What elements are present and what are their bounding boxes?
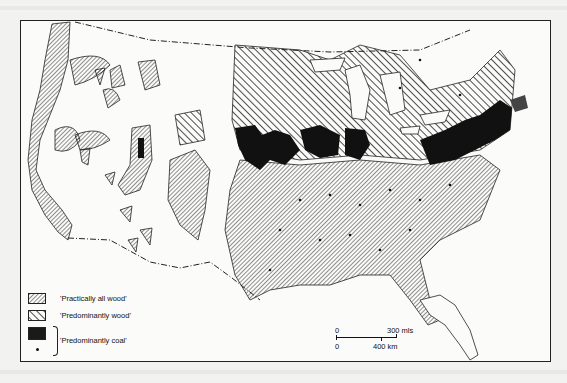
dot-icon <box>36 348 39 351</box>
legend-label: 'Predominantly wood' <box>60 311 131 320</box>
scale-line <box>336 337 396 338</box>
bracket-icon <box>53 326 58 356</box>
legend-label: 'Practically all wood' <box>60 294 127 303</box>
scale-bar: 0 300 mls 0 400 km <box>335 326 435 356</box>
scale-tick <box>381 337 382 341</box>
wide-hatch-icon <box>28 310 46 321</box>
scale-tick <box>396 334 397 338</box>
scale-mi-start: 0 <box>335 326 339 335</box>
region-south <box>225 155 500 325</box>
scale-km-start: 0 <box>335 342 339 351</box>
solid-black-icon <box>28 327 46 340</box>
dense-hatch-icon <box>28 293 46 304</box>
scale-km-end: 400 km <box>373 342 398 351</box>
us-fuel-map <box>0 0 567 383</box>
legend-label: 'Predominantly coal' <box>60 336 127 345</box>
region-texas <box>168 150 210 240</box>
region-colorado <box>118 125 152 195</box>
scale-mi-end: 300 mls <box>387 326 413 335</box>
scale-tick <box>336 335 337 340</box>
